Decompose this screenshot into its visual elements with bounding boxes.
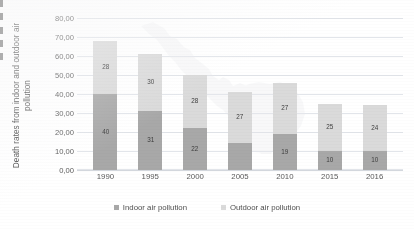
bar-value-label: 24	[371, 125, 378, 131]
bar-value-label: 22	[192, 146, 199, 152]
indoor-swatch-icon	[114, 205, 119, 210]
bar-value-label: 27	[281, 105, 288, 111]
y-axis-title-line-2: pollution	[23, 22, 34, 167]
bar-segment-outdoor[interactable]: 28	[183, 75, 207, 128]
bar-value-label: 27	[236, 115, 243, 121]
x-tick-label: 2005	[218, 172, 263, 188]
bar-value-label: 28	[102, 64, 109, 70]
bar-segment-outdoor[interactable]: 24	[363, 105, 387, 151]
bar-segment-indoor[interactable]	[228, 143, 252, 170]
bar-segment-indoor[interactable]: 22	[183, 128, 207, 170]
bar-series-container: 28403031282227271925102410	[77, 18, 403, 170]
bar-slot: 2410	[352, 18, 397, 170]
bar-segment-indoor[interactable]: 10	[363, 151, 387, 170]
bar-slot: 2719	[262, 18, 307, 170]
stacked-bar[interactable]: 3031	[138, 54, 162, 170]
bar-value-label: 10	[371, 157, 378, 163]
stacked-bar-chart: Death rates from indoor and outdoor air …	[0, 0, 414, 229]
bar-slot: 3031	[128, 18, 173, 170]
y-tick-label: 50,00	[55, 71, 74, 80]
y-tick-label: 20,00	[55, 128, 74, 137]
y-tick-label: 70,00	[55, 33, 74, 42]
bar-value-label: 25	[326, 124, 333, 130]
x-tick-label: 1990	[83, 172, 128, 188]
bar-value-label: 10	[326, 157, 333, 163]
stacked-bar[interactable]: 2840	[93, 41, 117, 170]
bar-segment-outdoor[interactable]: 27	[228, 92, 252, 143]
chart-legend: Indoor air pollutionOutdoor air pollutio…	[0, 198, 414, 216]
bar-segment-indoor[interactable]: 19	[273, 134, 297, 170]
bar-slot: 2822	[173, 18, 218, 170]
bar-value-label: 31	[147, 137, 154, 143]
stacked-bar[interactable]: 2719	[273, 83, 297, 170]
y-axis-title: Death rates from indoor and outdoor air …	[6, 0, 40, 190]
y-tick-label: 80,00	[55, 14, 74, 23]
x-axis-line	[77, 170, 403, 171]
bar-segment-outdoor[interactable]: 25	[318, 104, 342, 152]
bar-slot: 2510	[307, 18, 352, 170]
bar-slot: 27	[218, 18, 263, 170]
y-tick-label: 60,00	[55, 52, 74, 61]
legend-item-label: Indoor air pollution	[123, 203, 187, 212]
plot-area: 28403031282227271925102410	[77, 18, 403, 170]
x-tick-label: 2000	[173, 172, 218, 188]
y-axis-title-line-1: Death rates from indoor and outdoor air	[13, 22, 24, 167]
y-tick-label: 0,00	[59, 166, 74, 175]
bar-slot: 2840	[83, 18, 128, 170]
stacked-bar[interactable]: 2410	[363, 105, 387, 170]
bar-value-label: 28	[192, 98, 199, 104]
outdoor-swatch-icon	[221, 205, 226, 210]
bar-segment-indoor[interactable]: 10	[318, 151, 342, 170]
y-axis-tick-labels: 80,0070,0060,0050,0040,0030,0020,0010,00…	[38, 18, 74, 170]
y-tick-label: 10,00	[55, 147, 74, 156]
x-tick-label: 2016	[352, 172, 397, 188]
y-tick-label: 40,00	[55, 90, 74, 99]
bar-segment-outdoor[interactable]: 27	[273, 83, 297, 134]
x-tick-label: 2010	[262, 172, 307, 188]
x-tick-label: 2015	[307, 172, 352, 188]
x-axis-tick-labels: 1990199520002005201020152016	[77, 172, 403, 188]
legend-item[interactable]: Outdoor air pollution	[221, 203, 300, 212]
stacked-bar[interactable]: 2510	[318, 104, 342, 171]
bar-value-label: 19	[281, 149, 288, 155]
legend-item[interactable]: Indoor air pollution	[114, 203, 187, 212]
bar-value-label: 30	[147, 79, 154, 85]
bar-segment-indoor[interactable]: 40	[93, 94, 117, 170]
bar-segment-outdoor[interactable]: 28	[93, 41, 117, 94]
bar-segment-indoor[interactable]: 31	[138, 111, 162, 170]
y-tick-label: 30,00	[55, 109, 74, 118]
bar-segment-outdoor[interactable]: 30	[138, 54, 162, 111]
bar-value-label: 40	[102, 129, 109, 135]
legend-item-label: Outdoor air pollution	[230, 203, 300, 212]
x-tick-label: 1995	[128, 172, 173, 188]
stacked-bar[interactable]: 2822	[183, 75, 207, 170]
stacked-bar[interactable]: 27	[228, 92, 252, 170]
